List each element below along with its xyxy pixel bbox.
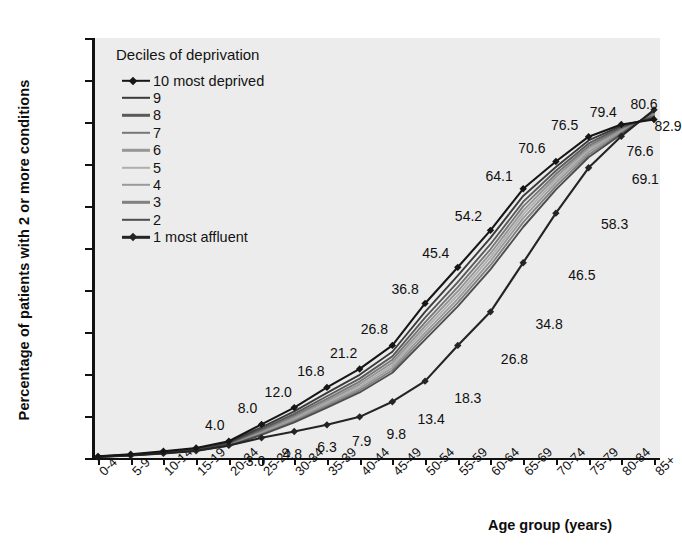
legend: Deciles of deprivation 10 most deprived9…: [116, 46, 336, 246]
data-point-label: 3.0: [246, 453, 265, 469]
data-point-label: 18.3: [454, 390, 481, 406]
legend-swatch: [122, 142, 150, 159]
legend-item-label: 7: [153, 125, 161, 141]
legend-item[interactable]: 5: [116, 159, 336, 176]
legend-item-label: 3: [153, 194, 161, 210]
y-axis-tick: [85, 416, 92, 418]
data-point-label: 70.6: [518, 140, 545, 156]
y-axis-tick: [85, 164, 92, 166]
data-point-label: 54.2: [455, 208, 482, 224]
data-point-label: 4.8: [283, 446, 302, 462]
y-axis-tick: [85, 38, 92, 40]
legend-item-label: 8: [153, 107, 161, 123]
data-point-label: 69.1: [632, 171, 659, 187]
legend-item[interactable]: 2: [116, 211, 336, 228]
legend-item[interactable]: 3: [116, 194, 336, 211]
data-point-label: 12.0: [265, 384, 292, 400]
series-marker: [356, 413, 363, 420]
data-point-label: 36.8: [391, 281, 418, 297]
y-axis-tick: [85, 332, 92, 334]
data-point-label: 26.8: [501, 351, 528, 367]
series-marker: [127, 451, 134, 458]
legend-item-label: 1 most affluent: [153, 229, 248, 245]
data-point-label: 26.8: [361, 321, 388, 337]
y-axis-tick: [85, 290, 92, 292]
y-axis-tick: [85, 458, 92, 460]
legend-swatch: [122, 72, 150, 89]
data-point-label: 64.1: [486, 168, 513, 184]
y-axis-tick: [85, 206, 92, 208]
y-axis-title: Percentage of patients with 2 or more co…: [16, 30, 32, 470]
legend-swatch: [122, 194, 150, 211]
data-point-label: 7.9: [352, 433, 371, 449]
y-axis-tick: [85, 80, 92, 82]
legend-item[interactable]: 6: [116, 142, 336, 159]
series-marker: [323, 421, 330, 428]
data-point-label: 58.3: [601, 216, 628, 232]
legend-item-label: 2: [153, 212, 161, 228]
legend-item[interactable]: 9: [116, 89, 336, 106]
plot-area: 0102030405060708090100 0-45-910-1415-192…: [94, 38, 660, 458]
data-point-label: 80.6: [630, 96, 657, 112]
data-point-label: 21.2: [330, 345, 357, 361]
legend-swatch: [122, 107, 150, 124]
x-axis-title: Age group (years): [430, 517, 670, 533]
legend-swatch: [122, 177, 150, 194]
legend-item[interactable]: 4: [116, 176, 336, 193]
legend-item[interactable]: 1 most affluent: [116, 229, 336, 246]
data-point-label: 45.4: [422, 245, 449, 261]
data-point-label: 76.6: [626, 143, 653, 159]
data-point-label: 82.9: [654, 118, 681, 134]
legend-items: 10 most deprived987654321 most affluent: [116, 72, 336, 246]
legend-item[interactable]: 8: [116, 107, 336, 124]
legend-item-label: 6: [153, 142, 161, 158]
legend-item-label: 9: [153, 90, 161, 106]
legend-item-label: 4: [153, 177, 161, 193]
legend-item-label: 5: [153, 160, 161, 176]
legend-item[interactable]: 7: [116, 124, 336, 141]
data-point-label: 9.8: [387, 426, 406, 442]
legend-swatch: [122, 211, 150, 228]
legend-swatch: [122, 159, 150, 176]
data-point-label: 8.0: [238, 400, 257, 416]
legend-swatch: [122, 90, 150, 107]
y-axis-tick: [85, 122, 92, 124]
data-point-label: 6.3: [317, 439, 336, 455]
data-point-label: 79.4: [590, 104, 617, 120]
legend-title: Deciles of deprivation: [116, 46, 336, 63]
legend-swatch: [122, 229, 150, 246]
y-axis-tick: [85, 374, 92, 376]
data-point-label: 4.0: [205, 417, 224, 433]
legend-item[interactable]: 10 most deprived: [116, 72, 336, 89]
data-point-label: 13.4: [417, 411, 444, 427]
legend-swatch: [122, 124, 150, 141]
data-point-label: 16.8: [297, 363, 324, 379]
series-marker: [291, 428, 298, 435]
data-point-label: 34.8: [536, 316, 563, 332]
data-point-label: 76.5: [551, 117, 578, 133]
data-point-label: 46.5: [568, 267, 595, 283]
legend-item-label: 10 most deprived: [153, 73, 264, 89]
y-axis-tick: [85, 248, 92, 250]
